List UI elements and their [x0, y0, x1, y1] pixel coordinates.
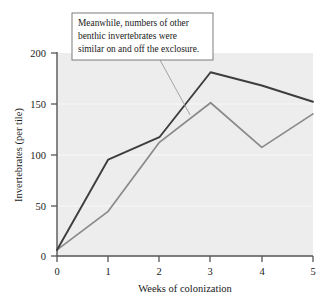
x-tick-label-4: 4: [259, 266, 265, 277]
y-axis-ticks: [51, 53, 57, 256]
callout-line-1: Meanwhile, numbers of other: [78, 18, 190, 28]
x-axis-ticks: [57, 256, 313, 262]
y-axis-title: Invertebrates (per tile): [13, 108, 25, 202]
y-tick-label-50: 50: [36, 201, 47, 212]
x-tick-label-5: 5: [310, 266, 315, 277]
callout-line-3: similar on and off the exclosure.: [78, 44, 199, 54]
x-tick-label-0: 0: [54, 266, 59, 277]
x-tick-label-1: 1: [105, 266, 110, 277]
x-axis-title: Weeks of colonization: [138, 283, 232, 294]
y-tick-label-0: 0: [41, 251, 46, 262]
callout-line-2: benthic invertebrates were: [78, 31, 177, 41]
y-tick-label-200: 200: [30, 48, 46, 59]
x-tick-label-2: 2: [156, 266, 161, 277]
chart-svg: 200 150 100 50 0 0 1 2 3 4 5 Weeks of co…: [0, 0, 327, 305]
y-tick-label-150: 150: [30, 99, 46, 110]
y-tick-label-100: 100: [30, 150, 46, 161]
x-tick-label-3: 3: [207, 266, 212, 277]
chart-figure: 200 150 100 50 0 0 1 2 3 4 5 Weeks of co…: [0, 0, 327, 305]
